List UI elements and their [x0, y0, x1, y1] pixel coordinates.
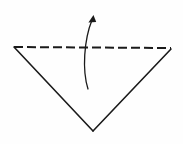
- figure-canvas: Paper folding diagram: downward triangle…: [0, 0, 183, 144]
- origami-fold-diagram: Paper folding diagram: downward triangle…: [0, 0, 183, 144]
